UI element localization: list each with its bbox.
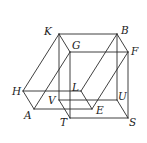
vertex-label-g: G [72, 39, 80, 51]
vertex-label-f: F [130, 45, 139, 57]
vertex-label-s: S [129, 116, 136, 128]
vertex-label-u: U [118, 90, 128, 102]
vertex-label-h: H [11, 85, 22, 97]
edge-ah [23, 91, 34, 109]
vertex-label-t: T [60, 116, 68, 128]
vertex-label-v: V [48, 94, 57, 106]
vertex-label-a: A [23, 109, 32, 121]
edge-us [117, 100, 128, 118]
vertex-label-l: L [71, 81, 79, 93]
edge-kh [23, 34, 59, 91]
edge-bf [117, 34, 128, 52]
labels-group: KBGFHLAEVUTS [11, 24, 139, 128]
vertex-label-b: B [120, 24, 129, 36]
edge-gk [59, 34, 70, 52]
geometry-figure: KBGFHLAEVUTS [0, 0, 147, 143]
vertex-label-k: K [43, 25, 53, 37]
edge-bl [81, 34, 117, 91]
vertex-label-e: E [95, 104, 104, 116]
